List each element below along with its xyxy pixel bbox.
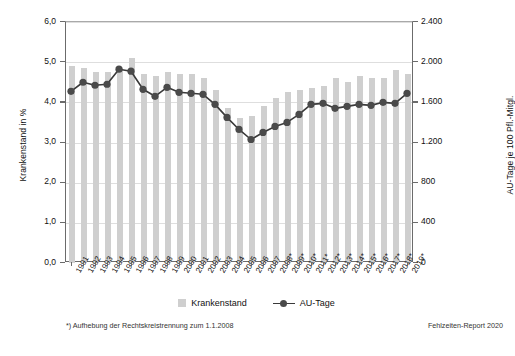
bar: [129, 58, 135, 263]
bar: [213, 90, 219, 263]
chart-legend: Krankenstand AU-Tage: [0, 298, 513, 308]
x-axis-tick: [299, 262, 300, 266]
bar: [285, 92, 291, 263]
legend-swatch-icon: [178, 299, 186, 307]
x-axis-tick: [383, 262, 384, 266]
x-axis-tick: [395, 262, 396, 266]
y-axis-left-tick-label: 0,0: [20, 257, 56, 267]
bar: [165, 72, 171, 263]
bar: [81, 68, 87, 263]
x-axis-tick: [155, 262, 156, 266]
legend-label-au-tage: AU-Tage: [300, 298, 335, 308]
x-axis-tick: [167, 262, 168, 266]
bar: [237, 118, 243, 263]
y-axis-right-tick-label: 800: [421, 176, 461, 186]
bar: [225, 108, 231, 263]
x-axis-tick: [359, 262, 360, 266]
y-axis-left-tick: [60, 101, 65, 102]
x-axis-tick: [263, 262, 264, 266]
y-axis-right-title: AU-Tage je 100 Pfl.-Mitgl.: [505, 65, 515, 225]
bar: [201, 78, 207, 263]
bar: [189, 74, 195, 263]
gridline: [66, 62, 412, 63]
bar: [381, 78, 387, 263]
y-axis-left-tick-label: 2,0: [20, 176, 56, 186]
bar: [261, 106, 267, 263]
y-axis-left-tick-label: 5,0: [20, 56, 56, 66]
x-axis-tick: [119, 262, 120, 266]
bar: [249, 116, 255, 263]
x-axis-tick: [335, 262, 336, 266]
x-axis-tick: [215, 262, 216, 266]
y-axis-left-tick: [60, 262, 65, 263]
y-axis-right-tick: [413, 21, 418, 22]
x-axis-tick: [311, 262, 312, 266]
y-axis-right-tick: [413, 101, 418, 102]
bar: [405, 74, 411, 263]
bar: [309, 88, 315, 263]
bar: [273, 98, 279, 263]
bar: [141, 74, 147, 263]
plot-area: [65, 21, 413, 262]
x-axis-tick: [203, 262, 204, 266]
x-axis-tick: [227, 262, 228, 266]
bar: [345, 82, 351, 263]
bar: [153, 76, 159, 263]
x-axis-tick: [371, 262, 372, 266]
bar: [321, 86, 327, 263]
x-axis-tick: [275, 262, 276, 266]
y-axis-right-tick: [413, 222, 418, 223]
x-axis-tick: [107, 262, 108, 266]
x-axis-tick: [251, 262, 252, 266]
source-text: Fehlzeiten-Report 2020: [428, 321, 503, 330]
bar: [369, 78, 375, 263]
x-axis-tick: [95, 262, 96, 266]
legend-item-krankenstand: Krankenstand: [178, 298, 247, 308]
y-axis-left-tick: [60, 142, 65, 143]
x-axis-tick: [143, 262, 144, 266]
x-axis-tick: [323, 262, 324, 266]
y-axis-right-tick: [413, 182, 418, 183]
bar: [297, 90, 303, 263]
y-axis-left-tick-label: 1,0: [20, 216, 56, 226]
y-axis-right-tick-label: 2.400: [421, 16, 461, 26]
y-axis-right-tick-label: 1.600: [421, 96, 461, 106]
gridline: [66, 22, 412, 23]
legend-item-au-tage: AU-Tage: [273, 298, 335, 308]
footnote-text: *) Aufhebung der Rechtskreistrennung zum…: [66, 321, 233, 330]
x-axis-tick: [347, 262, 348, 266]
legend-label-krankenstand: Krankenstand: [191, 298, 247, 308]
bar: [357, 76, 363, 263]
bar: [177, 74, 183, 263]
y-axis-right-tick: [413, 61, 418, 62]
bar: [393, 70, 399, 263]
bar: [93, 72, 99, 263]
x-axis-tick: [131, 262, 132, 266]
y-axis-left-tick-label: 6,0: [20, 16, 56, 26]
x-axis-tick: [407, 262, 408, 266]
x-axis-tick: [83, 262, 84, 266]
y-axis-left-tick-label: 4,0: [20, 96, 56, 106]
x-axis-tick: [239, 262, 240, 266]
y-axis-right-tick-label: 2.000: [421, 56, 461, 66]
y-axis-right-tick-label: 1.200: [421, 136, 461, 146]
x-axis-tick: [179, 262, 180, 266]
x-axis-tick: [287, 262, 288, 266]
y-axis-left-tick: [60, 222, 65, 223]
y-axis-left-tick: [60, 182, 65, 183]
bar: [69, 66, 75, 263]
y-axis-left-tick: [60, 21, 65, 22]
x-axis-tick: [71, 262, 72, 266]
bar: [105, 72, 111, 263]
legend-line-marker-icon: [273, 299, 295, 307]
bar: [333, 78, 339, 263]
bar: [117, 68, 123, 263]
x-axis-tick: [191, 262, 192, 266]
y-axis-left-tick-label: 3,0: [20, 136, 56, 146]
y-axis-left-tick: [60, 61, 65, 62]
y-axis-right-tick-label: 400: [421, 216, 461, 226]
y-axis-right-tick: [413, 142, 418, 143]
